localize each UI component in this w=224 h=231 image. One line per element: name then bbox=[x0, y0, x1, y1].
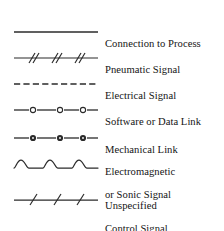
legend-label-line: Software or Data Link bbox=[105, 116, 224, 128]
legend-label-unspecified-control-signal: Unspecified Control Signal bbox=[105, 188, 224, 231]
filled-circle-line-icon bbox=[13, 128, 101, 148]
single-slash-line-icon bbox=[13, 190, 101, 210]
wavy-line-icon bbox=[13, 156, 101, 176]
double-slash-line-icon bbox=[13, 48, 101, 68]
legend-label-line: Connection to Process bbox=[105, 38, 224, 50]
legend-label-line: Electromagnetic bbox=[105, 166, 224, 178]
hollow-circle-line-icon bbox=[13, 100, 101, 120]
legend-label-line: Electrical Signal bbox=[105, 90, 224, 102]
legend-label-line: Control Signal bbox=[105, 223, 224, 231]
solid-line-icon bbox=[13, 22, 101, 42]
legend-label-line: Unspecified bbox=[105, 200, 224, 212]
line-symbol-legend: Connection to Process Pneumatic Signal bbox=[0, 0, 224, 231]
dashed-line-icon bbox=[13, 74, 101, 94]
legend-label-line: Pneumatic Signal bbox=[105, 64, 224, 76]
